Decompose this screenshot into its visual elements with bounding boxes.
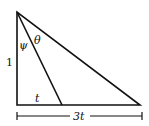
label-side-1: 1 [6, 56, 13, 69]
label-angle-psi: ψ [19, 39, 28, 52]
triangle-diagram: 1 ψ θ t 3t [0, 0, 149, 126]
inner-segment [17, 12, 62, 105]
label-angle-theta: θ [34, 34, 41, 47]
label-inner-base-t: t [35, 92, 40, 105]
label-full-base-3t: 3t [73, 110, 85, 123]
